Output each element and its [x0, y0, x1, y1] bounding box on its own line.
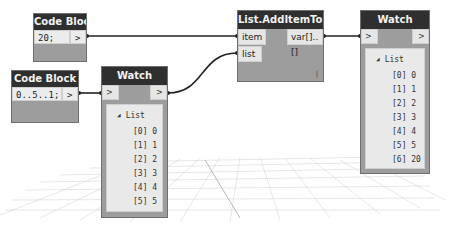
list-item: [1] 1 — [133, 141, 157, 150]
code-input[interactable]: 20; — [34, 30, 70, 44]
node-title: List.AddItemToEnd — [238, 11, 323, 29]
collapse-triangle-icon[interactable]: ◢ — [376, 55, 380, 62]
graph-canvas[interactable]: Code Block 20; > Code Block 0..5..1; > W… — [0, 0, 454, 228]
list-item: [5] 5 — [392, 141, 416, 150]
collapse-triangle-icon[interactable]: ◢ — [117, 111, 121, 118]
list-item: [6] 20 — [392, 155, 421, 164]
watch-node-1[interactable]: Watch > > ◢List [0] 0 [1] 1 [2] 2 [3] 3 … — [101, 66, 168, 218]
watch-node-2[interactable]: Watch > > ◢List [0] 0 [1] 1 [2] 2 [3] 3 … — [360, 10, 430, 174]
input-port[interactable]: > — [102, 85, 119, 100]
list-item: [3] 3 — [133, 169, 157, 178]
watch-list-panel[interactable]: ◢List [0] 0 [1] 1 [2] 2 [3] 3 [4] 4 [5] … — [365, 48, 425, 169]
list-header[interactable]: ◢List — [376, 55, 404, 64]
list-item: [0] 0 — [392, 71, 416, 80]
output-port[interactable]: > — [150, 85, 167, 100]
input-port[interactable]: > — [361, 29, 378, 44]
list-item: [2] 2 — [392, 99, 416, 108]
output-port[interactable]: > — [70, 30, 86, 44]
list-item: [0] 0 — [133, 127, 157, 136]
input-port-item[interactable]: item — [238, 29, 266, 45]
code-input[interactable]: 0..5..1; — [12, 87, 62, 101]
list-item: [4] 4 — [133, 183, 157, 192]
output-port-var[interactable]: var[]..[] — [287, 29, 323, 45]
list-item: [2] 2 — [133, 155, 157, 164]
input-port-list[interactable]: list — [238, 46, 262, 62]
add-item-to-end-node[interactable]: List.AddItemToEnd item list var[]..[] | — [237, 10, 324, 82]
code-block-node-1[interactable]: Code Block 20; > — [33, 13, 87, 62]
output-port[interactable]: > — [412, 29, 429, 44]
node-title: Code Block — [34, 14, 86, 30]
watch-list-panel[interactable]: ◢List [0] 0 [1] 1 [2] 2 [3] 3 [4] 4 [5] … — [106, 104, 163, 212]
list-item: [1] 1 — [392, 85, 416, 94]
node-title: Watch — [102, 67, 167, 85]
list-item: [5] 5 — [133, 197, 157, 206]
node-title: Watch — [361, 11, 429, 29]
list-header[interactable]: ◢List — [117, 111, 145, 120]
code-block-node-2[interactable]: Code Block 0..5..1; > — [11, 70, 79, 123]
list-item: [4] 4 — [392, 127, 416, 136]
lacing-indicator-icon[interactable]: | — [316, 70, 318, 78]
list-item: [3] 3 — [392, 113, 416, 122]
output-port[interactable]: > — [62, 87, 78, 101]
node-title: Code Block — [12, 71, 78, 87]
